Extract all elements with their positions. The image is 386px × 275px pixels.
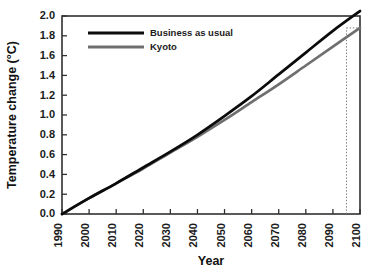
x-tick-label: 2080 xyxy=(296,223,308,247)
x-tick-label: 2020 xyxy=(133,223,145,247)
x-tick-label: 1990 xyxy=(52,223,64,247)
x-tick-label: 2050 xyxy=(215,223,227,247)
x-axis-title: Year xyxy=(198,254,225,268)
y-tick-label: 0.2 xyxy=(40,188,55,200)
y-tick-label: 0.8 xyxy=(40,128,55,140)
y-axis-tick-labels: 0.00.20.40.60.81.01.21.41.61.82.0 xyxy=(40,9,56,219)
y-tick-label: 2.0 xyxy=(40,9,55,21)
x-tick-label: 2040 xyxy=(187,223,199,247)
series-line-business-as-usual xyxy=(62,11,360,214)
y-tick-label: 1.0 xyxy=(40,108,55,120)
y-tick-label: 1.2 xyxy=(40,89,55,101)
y-tick-label: 0.0 xyxy=(40,207,55,219)
y-tick-label: 1.6 xyxy=(40,49,55,61)
y-tick-label: 0.6 xyxy=(40,148,55,160)
legend-label-business-as-usual: Business as usual xyxy=(150,27,233,38)
x-tick-label: 2100 xyxy=(350,223,362,247)
x-tick-label: 2010 xyxy=(106,223,118,247)
x-tick-label: 2060 xyxy=(242,223,254,247)
y-tick-label: 1.4 xyxy=(40,69,56,81)
annotation-guides xyxy=(346,28,360,214)
x-tick-label: 2070 xyxy=(269,223,281,247)
x-tick-label: 2030 xyxy=(160,223,172,247)
x-tick-label: 2000 xyxy=(79,223,91,247)
chart-legend: Business as usual Kyoto xyxy=(88,27,233,52)
temperature-change-line-chart: 0.00.20.40.60.81.01.21.41.61.82.0 199020… xyxy=(0,0,386,275)
chart-figure: 0.00.20.40.60.81.01.21.41.61.82.0 199020… xyxy=(0,0,386,275)
x-axis-tick-labels: 1990200020102020203020402050206020702080… xyxy=(52,223,362,247)
y-tick-label: 0.4 xyxy=(40,168,56,180)
y-tick-label: 1.8 xyxy=(40,29,55,41)
y-axis-title: Temperature change (°C) xyxy=(5,41,19,189)
series-line-kyoto xyxy=(62,28,360,214)
x-tick-label: 2090 xyxy=(323,223,335,247)
series-group xyxy=(62,11,360,214)
legend-label-kyoto: Kyoto xyxy=(150,41,177,52)
